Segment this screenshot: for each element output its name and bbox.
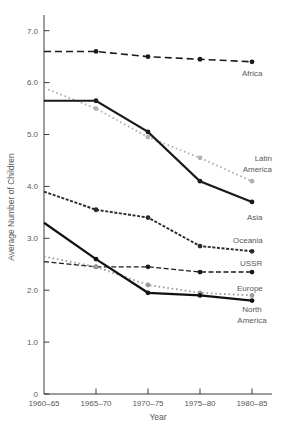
series-marker-latin-america [146,135,151,140]
series-marker-africa [198,57,203,62]
chart-svg: 7.06.05.04.03.02.01.001960–651965–701970… [0,0,284,435]
series-marker-asia [146,130,151,135]
x-tick-label: 1970–75 [132,399,164,408]
series-marker-africa [146,54,151,59]
series-label-latin-america: Latin [255,154,272,163]
y-tick-label: 6.0 [27,78,39,87]
series-label-latin-america: America [243,165,273,174]
series-marker-africa [94,49,99,54]
series-marker-oceania [146,215,151,220]
y-tick-label: 3.0 [27,234,39,243]
x-axis-title: Year [149,412,166,422]
y-tick-label: 0 [34,390,39,399]
series-marker-north-america [146,290,151,295]
series-marker-latin-america [250,179,255,184]
series-marker-oceania [250,249,255,254]
y-tick-label: 1.0 [27,338,39,347]
x-tick-label: 1965–70 [80,399,112,408]
series-line-asia [44,101,252,202]
series-label-north-america: North [242,305,262,314]
series-marker-north-america [94,257,99,262]
y-tick-label: 5.0 [27,130,39,139]
series-marker-asia [198,179,203,184]
fertility-rate-chart-figure: 7.06.05.04.03.02.01.001960–651965–701970… [0,0,284,435]
series-marker-oceania [94,207,99,212]
series-marker-ussr [250,270,255,275]
series-marker-oceania [198,244,203,249]
series-marker-ussr [198,270,203,275]
series-marker-latin-america [198,155,203,160]
series-marker-europe [146,283,151,288]
series-label-europe: Europe [237,284,263,293]
series-label-africa: Africa [242,69,263,78]
y-tick-label: 2.0 [27,286,39,295]
y-tick-label: 4.0 [27,182,39,191]
series-marker-asia [250,200,255,205]
series-line-north-america [44,223,252,301]
y-tick-label: 7.0 [27,27,39,36]
series-label-north-america: America [237,316,267,325]
series-marker-north-america [250,298,255,303]
series-marker-europe [94,264,99,269]
series-marker-asia [94,98,99,103]
series-line-oceania [44,192,252,252]
x-tick-label: 1960–65 [28,399,60,408]
series-marker-europe [250,293,255,298]
series-label-oceania: Oceania [233,236,263,245]
series-label-ussr: USSR [240,259,262,268]
series-line-europe [44,256,252,295]
x-tick-label: 1975–80 [184,399,216,408]
series-marker-africa [250,59,255,64]
y-axis-title: Average Number of Children [6,153,16,261]
x-tick-label: 1980–85 [236,399,268,408]
chart-generated-content: 7.06.05.04.03.02.01.001960–651965–701970… [27,15,273,408]
series-marker-latin-america [94,106,99,111]
series-marker-ussr [146,264,151,269]
series-label-asia: Asia [247,213,263,222]
axis-lines [44,15,272,394]
series-marker-north-america [198,293,203,298]
